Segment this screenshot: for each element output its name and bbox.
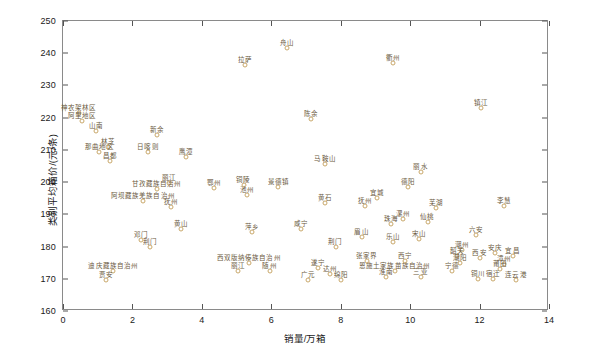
data-point-marker	[338, 278, 343, 283]
data-point-label: 贾安	[99, 272, 113, 279]
data-point-marker	[323, 201, 328, 206]
data-point-marker	[323, 162, 328, 167]
data-point-marker	[154, 186, 159, 191]
y-tick-mark	[542, 21, 547, 22]
data-point-marker	[309, 117, 314, 122]
data-point-marker	[479, 106, 484, 111]
data-point-label: 三亚	[413, 269, 427, 276]
data-point-marker	[107, 159, 112, 164]
data-point-marker	[375, 196, 380, 201]
data-point-label: 丽水	[413, 164, 427, 171]
data-point-marker	[104, 278, 109, 283]
data-point-label: 荆门	[143, 238, 157, 245]
data-point-label: 镇江	[474, 100, 488, 107]
data-point-marker	[402, 259, 407, 264]
x-tick-label-14: 14	[544, 315, 554, 325]
data-point-marker	[246, 260, 251, 265]
data-point-marker	[212, 185, 217, 190]
data-point-marker	[363, 204, 368, 209]
data-point-label: 池州	[240, 187, 254, 194]
data-point-label: 邓门	[134, 232, 148, 239]
data-point-marker	[284, 46, 289, 51]
data-point-label: 拉萨	[238, 56, 252, 63]
x-tick-mark	[341, 304, 342, 309]
y-tick-label-180: 180	[40, 242, 56, 252]
y-tick-mark	[542, 85, 547, 86]
x-tick-mark	[480, 304, 481, 309]
data-point-marker	[333, 244, 338, 249]
data-point-marker	[80, 118, 85, 123]
y-tick-label-250: 250	[40, 16, 56, 26]
data-point-marker	[147, 244, 152, 249]
y-tick-mark	[63, 182, 68, 183]
x-tick-mark	[202, 21, 203, 26]
data-point-label: 咸宁	[294, 220, 308, 227]
data-point-label: 荆门	[328, 238, 342, 245]
data-point-label: 漯州	[396, 211, 410, 218]
x-tick-mark	[549, 304, 550, 309]
data-point-label: 珠海	[384, 216, 398, 223]
data-point-label: 广元	[301, 272, 315, 279]
data-point-label: 铜川	[471, 270, 485, 277]
data-point-marker	[389, 222, 394, 227]
y-tick-mark	[542, 214, 547, 215]
data-point-label: 丽江	[231, 262, 245, 269]
data-point-label: 宜城	[370, 190, 384, 197]
data-point-marker	[475, 276, 480, 281]
y-tick-mark	[542, 149, 547, 150]
data-point-label: 黄山	[174, 220, 188, 227]
plot-area: 160170180190200210220230240250 024681012…	[62, 20, 548, 310]
data-point-marker	[491, 276, 496, 281]
x-tick-label-4: 4	[199, 315, 204, 325]
data-point-marker	[477, 255, 482, 260]
data-point-marker	[168, 205, 173, 210]
y-tick-label-230: 230	[40, 80, 56, 90]
data-point-marker	[243, 62, 248, 67]
data-point-marker	[250, 230, 255, 235]
data-point-label: 张家界	[356, 253, 377, 260]
x-tick-label-2: 2	[130, 315, 135, 325]
y-tick-label-240: 240	[40, 48, 56, 58]
data-point-label: 甘孜藏族自治州	[132, 180, 182, 187]
data-point-label: 西双版纳傣族自治州	[217, 254, 281, 261]
data-point-marker	[359, 234, 364, 239]
x-tick-label-8: 8	[338, 315, 343, 325]
y-tick-mark	[542, 278, 547, 279]
data-point-marker	[316, 265, 321, 270]
data-point-label: 潮阳	[453, 254, 467, 261]
data-point-label: 那曲地区	[85, 144, 113, 151]
y-tick-mark	[63, 53, 68, 54]
y-tick-mark	[542, 117, 547, 118]
y-tick-mark	[63, 214, 68, 215]
data-point-label: 宁德	[445, 262, 459, 269]
y-tick-mark	[542, 246, 547, 247]
data-point-label: 萍乡	[245, 224, 259, 231]
data-point-label: 宋山	[412, 230, 426, 237]
data-point-marker	[97, 150, 102, 155]
data-point-label: 德阳	[401, 178, 415, 185]
x-tick-mark	[410, 21, 411, 26]
data-point-label: 景德镇	[268, 178, 289, 185]
y-tick-mark	[63, 278, 68, 279]
x-tick-mark	[63, 21, 64, 26]
data-point-label: 连云港	[505, 272, 526, 279]
data-point-marker	[401, 217, 406, 222]
data-point-marker	[390, 239, 395, 244]
x-tick-label-0: 0	[60, 315, 65, 325]
y-tick-label-220: 220	[40, 113, 56, 123]
data-point-label: 乐山	[386, 233, 400, 240]
data-point-label: 舟山	[280, 40, 294, 47]
data-point-label: 阿里地区	[68, 112, 96, 119]
data-point-marker	[298, 226, 303, 231]
data-point-marker	[305, 278, 310, 283]
data-point-label: 神农架林区	[61, 104, 97, 111]
data-point-label: 新余	[150, 127, 164, 134]
x-tick-mark	[549, 21, 550, 26]
data-point-marker	[328, 271, 333, 276]
y-tick-mark	[63, 311, 68, 312]
data-point-label: 黄石	[318, 195, 332, 202]
data-point-label: 绵阳	[334, 272, 348, 279]
scatter-chart: 类别平均箱价/(元/条) 销量/万箱 160170180190200210220…	[0, 0, 604, 359]
data-point-marker	[236, 268, 241, 273]
data-point-marker	[416, 236, 421, 241]
